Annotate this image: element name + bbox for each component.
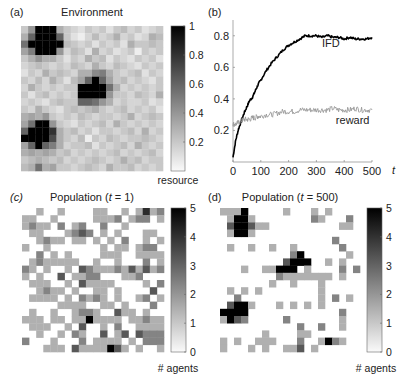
heatmap-cell xyxy=(136,316,143,324)
heatmap-cell xyxy=(297,258,304,266)
colorbar-tick-label: 5 xyxy=(190,202,196,214)
heatmap-cell xyxy=(49,70,56,78)
heatmap-cell xyxy=(58,222,65,230)
heatmap-cell xyxy=(156,33,163,41)
heatmap-cell xyxy=(136,266,143,274)
heatmap-cell xyxy=(78,26,85,34)
heatmap-cell xyxy=(100,208,107,216)
agents-colorbar-d: 012345 xyxy=(367,202,392,358)
heatmap-cell xyxy=(142,84,149,92)
heatmap-cell xyxy=(113,128,120,136)
heatmap-cell xyxy=(42,157,49,165)
heatmap-cell xyxy=(136,330,143,338)
heatmap-cell xyxy=(92,142,99,150)
heatmap-cell xyxy=(92,48,99,56)
heatmap-cell xyxy=(71,70,78,78)
heatmap-cell xyxy=(283,273,290,281)
heatmap-cell xyxy=(78,91,85,99)
heatmap-cell xyxy=(143,323,150,331)
heatmap-cell xyxy=(99,33,106,41)
x-tick-label: 400 xyxy=(335,165,353,177)
heatmap-cell xyxy=(50,251,57,259)
heatmap-cell xyxy=(150,230,157,238)
heatmap-cell xyxy=(72,230,79,238)
heatmap-cell xyxy=(128,142,135,150)
heatmap-cell xyxy=(143,309,150,317)
panel-b: (b) 01002003004005000.20.40.60.8 t IFD r… xyxy=(208,6,396,177)
heatmap-cell xyxy=(120,70,127,78)
heatmap-cell xyxy=(106,26,113,34)
heatmap-cell xyxy=(157,345,164,353)
heatmap-cell xyxy=(92,62,99,70)
heatmap-cell xyxy=(49,91,56,99)
heatmap-cell xyxy=(135,99,142,107)
heatmap-cell xyxy=(42,91,49,99)
heatmap-cell xyxy=(304,330,311,338)
heatmap-cell xyxy=(128,164,135,172)
heatmap-cell xyxy=(36,230,43,238)
heatmap-cell xyxy=(156,70,163,78)
heatmap-cell xyxy=(241,222,248,230)
heatmap-cell xyxy=(28,149,35,157)
heatmap-cell xyxy=(36,316,43,324)
heatmap-cell xyxy=(106,33,113,41)
heatmap-cell xyxy=(143,338,150,346)
heatmap-cell xyxy=(92,41,99,49)
heatmap-cell xyxy=(64,135,71,143)
heatmap-cell xyxy=(29,222,36,230)
panel-c: (c) Population (t = 1) 012345 # agents xyxy=(10,191,198,374)
heatmap-cell xyxy=(79,338,86,346)
heatmap-cell xyxy=(129,338,136,346)
heatmap-cell xyxy=(128,26,135,34)
panel-d-title: Population (t = 500) xyxy=(242,191,338,203)
heatmap-cell xyxy=(311,345,318,353)
heatmap-cell xyxy=(248,222,255,230)
heatmap-cell xyxy=(106,84,113,92)
heatmap-cell xyxy=(114,345,121,353)
heatmap-cell xyxy=(135,106,142,114)
heatmap-cell xyxy=(85,55,92,63)
heatmap-cell xyxy=(142,33,149,41)
heatmap-cell xyxy=(42,26,49,34)
heatmap-cell xyxy=(113,33,120,41)
heatmap-cell xyxy=(121,345,128,353)
heatmap-cell xyxy=(135,55,142,63)
heatmap-cell xyxy=(120,77,127,85)
heatmap-cell xyxy=(49,113,56,121)
heatmap-cell xyxy=(143,251,150,259)
heatmap-cell xyxy=(99,77,106,85)
heatmap-cell xyxy=(227,316,234,324)
heatmap-cell xyxy=(79,273,86,281)
heatmap-cell xyxy=(78,41,85,49)
heatmap-cell xyxy=(78,164,85,172)
x-axis-label-t: t xyxy=(392,164,396,176)
figure: (a) Environment 0.20.40.60.81 resource (… xyxy=(0,0,401,383)
heatmap-cell xyxy=(49,142,56,150)
heatmap-cell xyxy=(57,77,64,85)
heatmap-cell xyxy=(318,215,325,223)
heatmap-cell xyxy=(156,135,163,143)
heatmap-cell xyxy=(35,128,42,136)
heatmap-cell xyxy=(156,62,163,70)
heatmap-cell xyxy=(57,142,64,150)
heatmap-cell xyxy=(65,230,72,238)
heatmap-cell xyxy=(276,302,283,310)
heatmap-cell xyxy=(114,251,121,259)
heatmap-cell xyxy=(71,113,78,121)
heatmap-cell xyxy=(149,142,156,150)
heatmap-cell xyxy=(28,99,35,107)
heatmap-cell xyxy=(248,345,255,353)
heatmap-cell xyxy=(304,302,311,310)
heatmap-cell xyxy=(85,84,92,92)
heatmap-cell xyxy=(120,120,127,128)
heatmap-cell xyxy=(311,208,318,216)
heatmap-cell xyxy=(149,70,156,78)
heatmap-cell xyxy=(143,316,150,324)
heatmap-cell xyxy=(99,70,106,78)
heatmap-cell xyxy=(290,244,297,252)
heatmap-cell xyxy=(43,323,50,331)
heatmap-cell xyxy=(142,99,149,107)
heatmap-cell xyxy=(113,48,120,56)
heatmap-cell xyxy=(156,142,163,150)
colorbar-gradient xyxy=(171,26,185,171)
